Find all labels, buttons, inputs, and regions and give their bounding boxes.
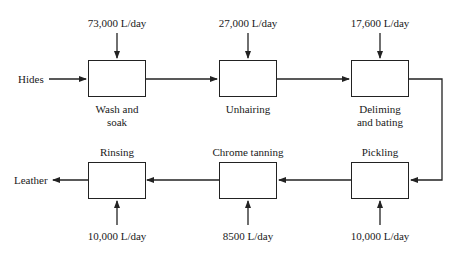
process-box-deliming-and-bating <box>351 60 409 97</box>
process-box-wash-and-soak <box>88 60 146 97</box>
process-box-unhairing <box>219 60 277 97</box>
process-name-pickling: Pickling <box>340 146 420 159</box>
process-box-rinsing <box>88 162 146 199</box>
water-label-chrome-tanning: 8500 L/day <box>208 230 288 243</box>
water-label-deliming-and-bating: 17,600 L/day <box>340 17 420 30</box>
process-name-unhairing: Unhairing <box>208 103 288 116</box>
process-name-rinsing: Rinsing <box>77 146 157 159</box>
water-label-rinsing: 10,000 L/day <box>77 230 157 243</box>
water-label-wash-and-soak: 73,000 L/day <box>77 17 157 30</box>
output-label-leather: Leather <box>14 174 48 187</box>
process-name-line2: and bating <box>340 116 420 129</box>
input-label-hides: Hides <box>18 73 44 86</box>
process-name-line2: soak <box>77 116 157 129</box>
process-name-line1: Wash and <box>77 103 157 116</box>
process-name-line1: Deliming <box>340 103 420 116</box>
water-label-pickling: 10,000 L/day <box>340 230 420 243</box>
process-box-pickling <box>351 162 409 199</box>
water-label-unhairing: 27,000 L/day <box>208 17 288 30</box>
process-name-chrome-tanning: Chrome tanning <box>198 146 298 159</box>
process-name-deliming-and-bating: Deliming and bating <box>340 103 420 129</box>
process-name-wash-and-soak: Wash and soak <box>77 103 157 129</box>
process-box-chrome-tanning <box>219 162 277 199</box>
